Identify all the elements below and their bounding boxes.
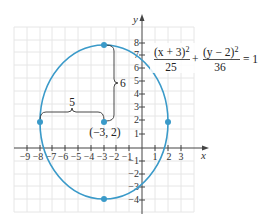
x-tick-label: 2 bbox=[167, 151, 172, 162]
y-axis-label: y bbox=[132, 13, 138, 25]
y-tick-label: 6 bbox=[134, 62, 139, 73]
y-tick-label: 3 bbox=[134, 101, 139, 112]
y-tick-labels: 8 7 6 5 4 3 2 1 −1 −2 −3 −4 bbox=[128, 37, 139, 205]
y-tick-label: −1 bbox=[128, 155, 139, 166]
x-tick-label: 1 bbox=[153, 151, 158, 162]
ellipse-equation: (x + 3)2 25 + (y − 2)2 36 = 1 bbox=[150, 43, 266, 73]
x-tick-label: −8 bbox=[33, 151, 44, 162]
svg-text:(y − 2)2: (y − 2)2 bbox=[203, 45, 238, 59]
x-tick-label: −4 bbox=[84, 151, 95, 162]
x-tick-label: −9 bbox=[20, 151, 31, 162]
vertex-bottom-point bbox=[101, 196, 107, 202]
y-tick-label: 2 bbox=[134, 114, 139, 125]
ellipse-diagram: −9 −8 −7 −6 −5 −4 −3 −2 −1 1 2 3 x 8 7 6… bbox=[0, 0, 266, 223]
center-point bbox=[101, 119, 107, 125]
svg-text:(x + 3)2: (x + 3)2 bbox=[154, 45, 189, 59]
y-tick-label: −2 bbox=[128, 168, 139, 179]
vertex-top-point bbox=[101, 42, 107, 48]
y-axis-arrow-icon bbox=[140, 14, 145, 21]
y-tick-label: 1 bbox=[134, 128, 139, 139]
y-tick-label: 5 bbox=[134, 75, 139, 86]
x-tick-label: 3 bbox=[179, 151, 184, 162]
center-label: (−3, 2) bbox=[89, 126, 121, 139]
equation-denominator-1: 25 bbox=[165, 61, 177, 73]
equation-denominator-2: 36 bbox=[214, 61, 226, 73]
semi-axis-6-label: 6 bbox=[120, 77, 126, 89]
x-tick-label: −6 bbox=[58, 151, 69, 162]
y-tick-label: −4 bbox=[128, 194, 139, 205]
equation-equals: = 1 bbox=[243, 53, 258, 65]
x-tick-label: −3 bbox=[97, 151, 108, 162]
x-axis-label: x bbox=[200, 149, 206, 161]
y-tick-label: 8 bbox=[134, 37, 139, 48]
x-tick-label: −2 bbox=[109, 151, 120, 162]
covertex-right-point bbox=[165, 119, 171, 125]
covertex-left-point bbox=[37, 119, 43, 125]
equation-plus: + bbox=[192, 53, 199, 65]
y-tick-label: 4 bbox=[134, 88, 139, 99]
horizontal-brace-icon bbox=[40, 108, 104, 120]
x-tick-label: −5 bbox=[71, 151, 82, 162]
semi-axis-5-label: 5 bbox=[69, 96, 75, 108]
